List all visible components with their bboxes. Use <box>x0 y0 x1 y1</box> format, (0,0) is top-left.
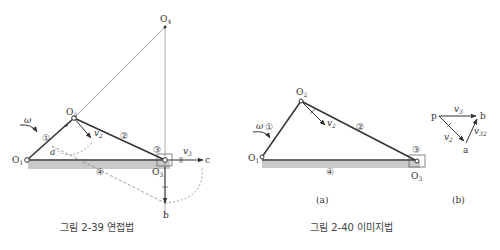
v2-arrow-b <box>301 101 325 125</box>
label-link-4-b: ④ <box>326 167 334 177</box>
label-v32-poly: v32 <box>474 126 487 137</box>
label-a: a <box>50 147 55 157</box>
label-link-1: ① <box>42 133 50 143</box>
label-o4: O4 <box>160 14 171 25</box>
velocity-polygon: p b a v3 v2 v32 <box>431 104 487 155</box>
label-o1-b: O1 <box>248 153 259 164</box>
label-v2-poly: v2 <box>444 132 453 143</box>
label-v3: v3 <box>183 146 192 157</box>
label-b-poly: b <box>480 111 486 121</box>
ground-link-4-b <box>262 161 420 168</box>
joint-o2-b <box>299 99 303 103</box>
joint-o3-b <box>415 159 419 163</box>
label-link-3: ③ <box>153 145 161 155</box>
construction-line-o2-o4 <box>74 27 165 118</box>
label-p: p <box>431 111 437 121</box>
label-a-poly: a <box>463 145 469 155</box>
sublabel-a: (a) <box>316 195 328 205</box>
label-o3-b: O3 <box>411 171 422 182</box>
diagram-canvas: O4 O2 O1 O3 a b c ω v2 v3 ① ② ③ ④ 그림 2-3… <box>0 0 500 250</box>
label-v2-b: v2 <box>327 118 336 129</box>
label-o1: O1 <box>12 155 23 166</box>
joint-o1 <box>25 158 30 163</box>
dashed-line-a-b <box>52 146 165 203</box>
point-o4 <box>164 26 167 29</box>
label-v2: v2 <box>94 128 103 139</box>
caption-fig-2-40: 그림 2-40 이미지법 <box>310 222 393 233</box>
label-c: c <box>205 155 210 165</box>
v2-arrow <box>74 118 91 138</box>
label-link-4: ④ <box>96 167 104 177</box>
sublabel-b: (b) <box>452 195 465 205</box>
label-link-2-b: ② <box>356 122 364 132</box>
label-v3-poly: v3 <box>454 104 463 115</box>
caption-fig-2-39: 그림 2-39 연접법 <box>60 222 134 233</box>
label-omega-b: ω <box>256 121 264 131</box>
label-o2: O2 <box>66 107 77 118</box>
label-link-3-b: ③ <box>412 145 420 155</box>
dashed-arc-b-c <box>165 168 202 203</box>
label-link-2: ② <box>120 131 128 141</box>
label-b: b <box>163 210 169 220</box>
figure-2-39: O4 O2 O1 O3 a b c ω v2 v3 ① ② ③ ④ 그림 2-3… <box>12 14 210 233</box>
label-o2-b: O2 <box>296 87 307 98</box>
figure-2-40: O2 O1 O3 ω v2 ① ② ③ ④ (a) p b a v3 v2 v3… <box>248 87 487 233</box>
label-omega: ω <box>24 115 32 125</box>
joint-o3 <box>163 158 168 163</box>
label-link-1-b: ① <box>265 122 273 132</box>
omega-arrow-b <box>253 132 270 138</box>
joint-o1-b <box>260 155 264 159</box>
omega-arrow <box>20 125 37 132</box>
